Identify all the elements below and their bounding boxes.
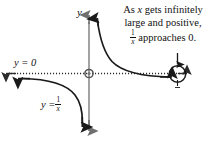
function-label-fraction: 1x xyxy=(55,96,61,113)
annotation-line-1-prefix: As xyxy=(123,4,137,15)
function-label: y =1x xyxy=(41,96,61,113)
function-fraction-denominator: x xyxy=(55,104,61,113)
function-fraction-numerator: 1 xyxy=(55,96,61,104)
asymptote-label-text: y = 0 xyxy=(14,57,36,68)
limit-annotation-text: As x gets infinitely large and positive,… xyxy=(108,4,218,46)
y-axis-label: y xyxy=(77,6,82,18)
limit-callout-circle xyxy=(169,53,185,88)
math-figure-one-over-x: y y = 0 y =1x As x gets infinitely large… xyxy=(0,0,219,143)
asymptote-label: y = 0 xyxy=(14,57,36,68)
annotation-line-3: 1x approaches 0. xyxy=(108,29,218,46)
function-label-lhs: y = xyxy=(41,99,55,110)
annotation-line-1-suffix: gets infinitely xyxy=(142,4,203,15)
annotation-line-1: As x gets infinitely xyxy=(108,4,218,17)
annotation-line-2: large and positive, xyxy=(108,17,218,30)
annotation-line-3-tail: approaches 0. xyxy=(136,33,196,44)
